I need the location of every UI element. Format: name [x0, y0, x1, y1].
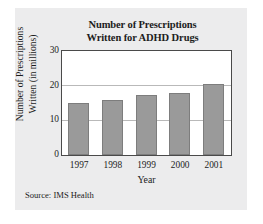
plot-inner [62, 51, 231, 155]
x-tick-label-1997: 1997 [62, 160, 96, 170]
bar-1999 [136, 95, 157, 155]
chart-title-line-1: Number of Prescriptions [88, 19, 196, 30]
x-tick-label-2001: 2001 [197, 160, 231, 170]
y-tick-label: 20 [37, 80, 59, 90]
y-axis-title-line-1: Number of Prescriptions [14, 27, 25, 121]
x-tick-label-1998: 1998 [96, 160, 130, 170]
chart-title-line-2: Written for ADHD Drugs [45, 32, 240, 45]
bar-2001 [203, 84, 224, 155]
x-tick-label-2000: 2000 [163, 160, 197, 170]
chart-title: Number of Prescriptions Written for ADHD… [45, 19, 240, 44]
plot-area [61, 50, 232, 156]
chart-figure: Number of Prescriptions Written for ADHD… [15, 8, 247, 210]
y-axis-tick-labels: 0102030 [33, 8, 59, 210]
bar-1997 [68, 103, 89, 155]
y-tick-label: 10 [37, 114, 59, 124]
source-note: Source: IMS Health [25, 190, 94, 200]
y-tick-label: 0 [37, 149, 59, 159]
bar-2000 [169, 93, 190, 155]
x-tick-label-1999: 1999 [130, 160, 164, 170]
bar-1998 [102, 100, 123, 155]
x-axis-title: Year [61, 174, 232, 185]
y-tick-label: 30 [37, 45, 59, 55]
